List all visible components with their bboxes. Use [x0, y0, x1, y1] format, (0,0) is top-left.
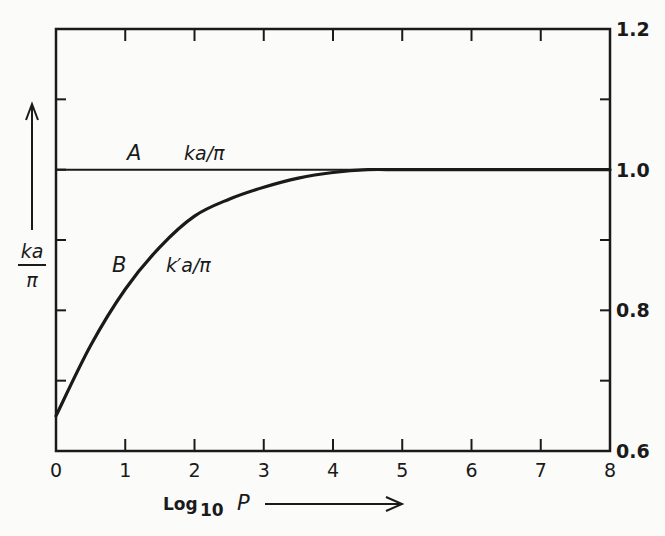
series-a-expression: ka/π — [184, 142, 225, 164]
x-tick-label: 2 — [188, 459, 200, 481]
x-tick-label: 4 — [327, 459, 339, 481]
y-tick-label: 1.0 — [616, 159, 650, 181]
x-tick-label: 3 — [258, 459, 270, 481]
x-title-log: Log — [163, 494, 198, 514]
y-tick-label: 1.2 — [616, 18, 650, 40]
plot-frame — [56, 29, 610, 451]
y-title-numerator: ka — [21, 240, 44, 262]
series-a-letter: A — [125, 141, 141, 165]
axis-ticks — [56, 29, 610, 451]
x-title-subscript: 10 — [200, 500, 224, 520]
series-b-curve — [56, 169, 610, 415]
y-axis-title: ka π — [18, 104, 46, 291]
x-title-variable: P — [237, 491, 250, 515]
x-tick-label: 0 — [50, 459, 62, 481]
x-tick-label: 7 — [535, 459, 547, 481]
y-tick-label: 0.8 — [616, 299, 650, 321]
x-tick-label: 8 — [604, 459, 616, 481]
y-tick-labels: 0.60.81.01.2 — [616, 18, 650, 462]
series-b-expression: k′a/π — [166, 254, 211, 276]
x-tick-label: 5 — [396, 459, 408, 481]
x-tick-label: 1 — [119, 459, 131, 481]
x-axis-title: Log 10 P — [163, 491, 402, 520]
series-b-letter: B — [112, 253, 126, 277]
y-title-denominator: π — [26, 269, 38, 291]
x-tick-label: 6 — [465, 459, 477, 481]
y-tick-label: 0.6 — [616, 440, 650, 462]
chart: 012345678 0.60.81.01.2 A ka/π B k′a/π ka… — [0, 0, 665, 536]
x-tick-labels: 012345678 — [50, 459, 616, 481]
